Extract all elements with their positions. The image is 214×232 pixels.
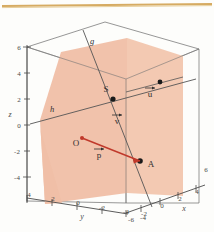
- 3d-plane-diagram: 6 4 2 0 -2 -4 z 4 2 0 -2 -4 y -6 -4 -2 0…: [0, 0, 214, 232]
- z-tick-neg4: -4: [14, 174, 20, 182]
- axis-label-y: y: [79, 212, 84, 221]
- z-tick-6: 6: [17, 44, 21, 52]
- label-vector-p-text: p: [97, 150, 102, 160]
- x-tick-neg2: -2: [141, 210, 147, 218]
- y-tick-4: 4: [27, 191, 31, 199]
- y-tick-2: 2: [51, 195, 55, 203]
- label-point-S: S: [103, 84, 108, 94]
- x-tick-6: 6: [204, 166, 208, 174]
- z-tick-0: 0: [17, 122, 21, 130]
- z-tick-4: 4: [17, 70, 21, 78]
- label-line-h: h: [50, 104, 54, 114]
- label-point-O: O: [73, 138, 80, 148]
- label-vector-u-text: u: [148, 89, 153, 99]
- corner-tick-neg6: -6: [128, 216, 134, 224]
- figure-container: 6 4 2 0 -2 -4 z 4 2 0 -2 -4 y -6 -4 -2 0…: [0, 0, 214, 232]
- y-tick-neg2: -2: [99, 204, 105, 212]
- z-tick-neg2: -2: [14, 148, 20, 156]
- axis-label-x: x: [181, 204, 186, 213]
- axis-label-z: z: [7, 110, 12, 119]
- z-tick-2: 2: [17, 96, 21, 104]
- label-point-A: A: [148, 159, 155, 169]
- x-tick-0: 0: [160, 202, 164, 210]
- axis-z: [23, 45, 31, 203]
- label-vector-v-text: v: [115, 116, 120, 126]
- point-u-tip-marker: [158, 80, 163, 85]
- point-S-marker: [110, 96, 115, 101]
- x-tick-4: 4: [195, 188, 199, 196]
- plane-surface: [40, 38, 183, 204]
- y-tick-neg4: -4: [123, 208, 129, 216]
- x-tick-2: 2: [178, 195, 182, 203]
- y-tick-0: 0: [76, 199, 80, 207]
- plane-right-panel: [127, 38, 183, 196]
- top-divider: [2, 4, 212, 8]
- label-line-g: g: [90, 36, 94, 46]
